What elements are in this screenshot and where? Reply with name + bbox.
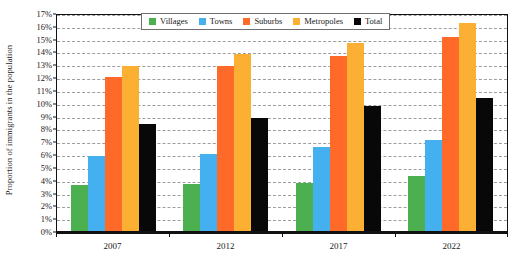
y-axis-tick-label: 17% [36,9,52,19]
plot-area [56,14,508,232]
bar-total-2007 [139,124,156,231]
y-axis-title-label: Proportion of immigrants in the populati… [4,45,14,195]
y-axis-tick-label: 11% [37,86,52,96]
y-axis-tick-label: 15% [36,35,52,45]
bar-suburbs-2017 [330,56,347,231]
bar-villages-2022 [408,176,425,231]
legend-item-total[interactable]: Total [354,17,382,26]
legend-item-label: Metropoles [304,17,343,26]
y-axis-tick-label: 14% [36,47,52,57]
legend-item-label: Villages [160,17,188,26]
bar-group-2007 [57,15,170,231]
y-axis-tick-label: 7% [41,137,52,147]
legend-item-label: Suburbs [254,17,282,26]
x-axis-tick-label: 2012 [169,238,282,258]
legend-swatch-icon [293,18,300,25]
bar-chart: Proportion of immigrants in the populati… [0,0,515,261]
bar-towns-2017 [313,147,330,231]
x-axis-tick-mark [395,232,396,237]
legend-swatch-icon [149,18,156,25]
bar-total-2012 [251,118,268,231]
bar-suburbs-2022 [442,37,459,231]
bar-suburbs-2007 [105,77,122,231]
y-axis-title: Proportion of immigrants in the populati… [0,0,18,240]
y-axis-tick-label: 9% [41,112,52,122]
y-axis-tick-label: 0% [41,227,52,237]
bar-group-2012 [170,15,283,231]
y-axis-tick-label: 8% [41,124,52,134]
y-axis-tick-label: 10% [36,99,52,109]
bar-villages-2017 [296,183,313,231]
x-axis-tick-label: 2007 [56,238,169,258]
legend-swatch-icon [199,18,206,25]
x-axis-tick-labels: 2007201220172022 [56,238,508,258]
x-axis-tick-mark [56,232,57,237]
bar-towns-2022 [425,140,442,231]
x-axis-tick-label: 2017 [282,238,395,258]
legend-item-villages[interactable]: Villages [149,17,188,26]
y-axis-tick-label: 12% [36,73,52,83]
bar-towns-2007 [88,156,105,231]
bar-metropoles-2012 [234,54,251,231]
bar-villages-2007 [71,185,88,231]
bar-total-2017 [364,106,381,231]
x-axis-tick-mark [507,232,508,237]
bar-suburbs-2012 [217,66,234,231]
legend-item-label: Towns [210,17,233,26]
y-axis-tick-label: 5% [41,163,52,173]
legend-swatch-icon [354,18,361,25]
bar-towns-2012 [200,154,217,232]
bars-layer [57,15,507,231]
chart-legend: VillagesTownsSuburbsMetropolesTotal [141,13,390,30]
y-axis-tick-labels: 0%1%2%3%4%5%6%7%8%9%10%11%12%13%14%15%16… [18,14,56,232]
y-axis-tick-label: 3% [41,189,52,199]
y-axis-tick-label: 13% [36,60,52,70]
bar-metropoles-2022 [459,23,476,231]
bar-total-2022 [476,98,493,231]
bar-metropoles-2017 [347,43,364,231]
legend-swatch-icon [243,18,250,25]
legend-item-label: Total [365,17,382,26]
x-axis-tick-mark [169,232,170,237]
x-axis-tick-label: 2022 [395,238,508,258]
y-axis-tick-label: 6% [41,150,52,160]
x-axis-tick-mark [282,232,283,237]
legend-item-suburbs[interactable]: Suburbs [243,17,282,26]
bar-metropoles-2007 [122,66,139,231]
bar-group-2017 [282,15,395,231]
legend-item-towns[interactable]: Towns [199,17,233,26]
y-axis-tick-label: 2% [41,201,52,211]
y-axis-tick-label: 16% [36,22,52,32]
bar-group-2022 [395,15,508,231]
y-axis-tick-label: 1% [41,214,52,224]
legend-item-metropoles[interactable]: Metropoles [293,17,343,26]
bar-villages-2012 [183,184,200,231]
y-axis-tick-label: 4% [41,176,52,186]
